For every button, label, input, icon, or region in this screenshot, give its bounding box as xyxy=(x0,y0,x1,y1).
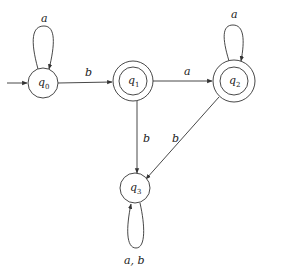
transition-q0-q0-a xyxy=(33,26,53,69)
transition-q0-q1-b xyxy=(58,82,112,83)
label-q2-q3: b xyxy=(172,132,179,145)
label-q1-q3: b xyxy=(143,132,150,145)
label-q3-q3: a, b xyxy=(124,254,145,267)
state-q0: q0 xyxy=(28,68,58,98)
label-q2-q2: a xyxy=(231,8,238,21)
state-q1: q1 xyxy=(113,61,153,101)
label-q1-q2: a xyxy=(184,65,191,78)
transition-q3-q3-ab xyxy=(128,203,144,248)
state-q2: q2 xyxy=(213,60,255,102)
label-q0-q0: a xyxy=(41,12,48,25)
transition-q2-q2-a xyxy=(224,25,243,61)
label-q0-q1: b xyxy=(85,66,92,79)
transition-q2-q3-b xyxy=(146,97,219,179)
state-q3: q3 xyxy=(120,173,150,203)
dfa-diagram: a b a a b b a, b q0 q1 q2 q3 xyxy=(0,0,283,278)
